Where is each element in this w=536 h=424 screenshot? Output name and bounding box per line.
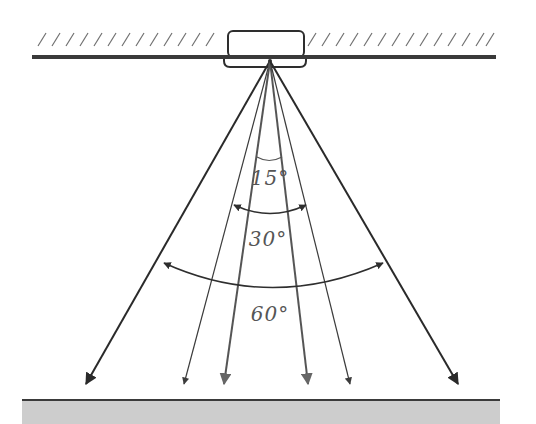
- beam-15-left: [224, 61, 270, 384]
- beam-15-right: [270, 61, 308, 384]
- light-fixture-housing: [228, 31, 304, 57]
- light-fixture-trim: [224, 59, 306, 67]
- beam-angle-diagram: 15° 30° 60°: [0, 0, 536, 424]
- beam-60-left: [86, 61, 270, 384]
- arc-15-degree: [257, 157, 282, 161]
- beam-30-right: [270, 61, 350, 384]
- beam-30-left: [184, 61, 270, 384]
- angle-label-15: 15°: [251, 166, 289, 190]
- floor-surface: [22, 400, 500, 424]
- angle-label-60: 60°: [251, 302, 289, 326]
- light-beams: [86, 61, 458, 384]
- arc-30-degree: [234, 205, 306, 214]
- diagram-svg: [0, 0, 536, 424]
- beam-60-right: [270, 61, 458, 384]
- angle-label-30: 30°: [249, 227, 287, 251]
- arc-60-degree: [164, 263, 383, 288]
